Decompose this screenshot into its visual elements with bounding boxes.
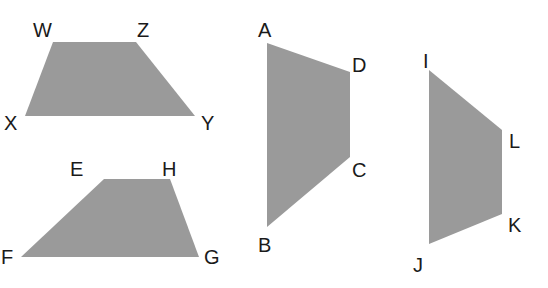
trapezoid-adcb-shape <box>267 43 350 227</box>
vertex-label-g: G <box>204 246 220 268</box>
trapezoid-ilkj: I L K J <box>413 50 522 276</box>
vertex-label-z: Z <box>137 19 149 41</box>
vertex-label-l: L <box>509 130 520 152</box>
vertex-label-h: H <box>162 158 176 180</box>
vertex-label-c: C <box>352 159 366 181</box>
vertex-label-j: J <box>413 254 423 276</box>
vertex-label-k: K <box>508 214 522 236</box>
vertex-label-e: E <box>70 158 83 180</box>
trapezoid-ehgf: E H G F <box>1 158 220 268</box>
vertex-label-b: B <box>258 234 271 256</box>
trapezoid-adcb: A D C B <box>258 19 366 256</box>
vertex-label-i: I <box>423 50 429 72</box>
trapezoid-wzyx: W Z Y X <box>4 19 214 134</box>
trapezoid-wzyx-shape <box>25 42 195 116</box>
vertex-label-f: F <box>1 246 13 268</box>
vertex-label-a: A <box>258 19 272 41</box>
vertex-label-x: X <box>4 112 17 134</box>
trapezoid-ehgf-shape <box>21 179 199 257</box>
diagram-canvas: W Z Y X E H G F A D C B I L K J <box>0 0 548 288</box>
vertex-label-d: D <box>352 54 366 76</box>
trapezoid-ilkj-shape <box>429 70 502 244</box>
vertex-label-y: Y <box>201 112 214 134</box>
vertex-label-w: W <box>33 19 52 41</box>
